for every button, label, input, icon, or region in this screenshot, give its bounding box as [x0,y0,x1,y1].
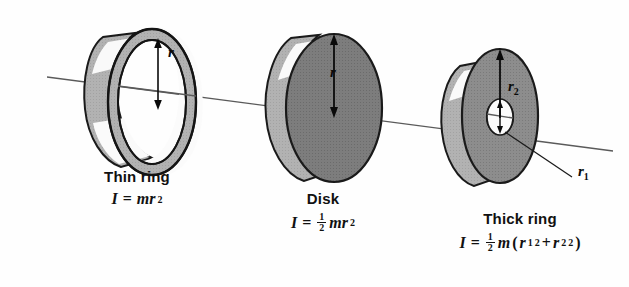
formula-term2: r [553,234,559,252]
formula-fraction-one-half: 1 2 [317,212,326,233]
formula-open-paren: ( [512,234,517,252]
formula-terms: mr [329,214,348,232]
fraction-numerator: 1 [317,212,326,222]
disk-shape [265,34,382,182]
formula-equals: = [123,190,132,208]
fraction-denominator: 2 [317,222,326,233]
formula-lhs: I [111,190,117,208]
moments-of-inertia-figure: r r r2 r1 Thin ring I = mr 2 Disk I = 1 … [0,0,629,287]
thin-ring-shape [84,27,203,176]
disk-formula: I = 1 2 mr 2 [253,212,393,233]
formula-term1-exponent: 2 [535,237,540,248]
formula-exponent: 2 [158,194,163,205]
thin-ring-name: Thin ring [74,168,200,185]
formula-terms: mr [137,190,156,208]
fraction-numerator: 1 [486,232,495,242]
thick-ring-shape [441,49,572,186]
thick-ring-name: Thick ring [425,210,615,227]
formula-close-paren: ) [575,234,580,252]
thick-ring-formula: I = 1 2 m ( r12 + r22 ) [425,232,615,253]
formula-mass-term: m [498,234,510,252]
disk-radius-label: r [330,64,336,81]
thin-ring-inner-edge [118,40,186,164]
thin-ring-radius-arrow [154,38,162,110]
formula-term2-subscript: 2 [561,237,566,248]
disk-label-block: Disk I = 1 2 mr 2 [253,190,393,233]
formula-equals: = [471,234,480,252]
formula-lhs: I [291,214,297,232]
thin-ring-label-block: Thin ring I = mr 2 [74,168,200,208]
formula-plus: + [542,234,551,252]
thin-ring-radius-label: r [168,44,174,61]
thick-ring-r1-label: r1 [578,163,589,182]
fraction-denominator: 2 [486,242,495,253]
formula-equals: = [302,214,311,232]
thick-ring-r2-label: r2 [508,78,519,97]
formula-fraction-one-half: 1 2 [486,232,495,253]
thick-ring-label-block: Thick ring I = 1 2 m ( r12 + r22 ) [425,210,615,253]
thin-ring-formula: I = mr 2 [74,190,200,208]
formula-term1: r [520,234,526,252]
formula-lhs: I [459,234,465,252]
formula-term2-exponent: 2 [568,237,573,248]
formula-exponent: 2 [350,217,355,228]
disk-name: Disk [253,190,393,207]
formula-term1-subscript: 1 [528,237,533,248]
